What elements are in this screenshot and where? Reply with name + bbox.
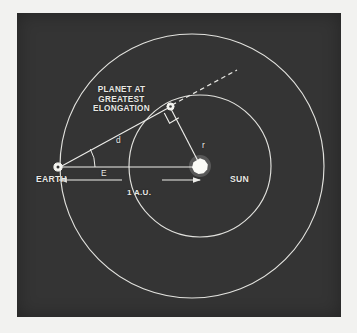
segment-d-line <box>60 107 170 167</box>
planet-marker-inner <box>169 105 172 108</box>
au-arrowhead-right <box>193 177 201 183</box>
figure-page: PLANET AT GREATEST ELONGATION EARTH SUN … <box>0 0 357 333</box>
right-angle-marker <box>164 113 179 123</box>
elongation-diagram <box>17 13 341 317</box>
earth-label: EARTH <box>36 174 67 184</box>
planet-label-line3: ELONGATION <box>93 104 150 113</box>
segment-r-label: r <box>202 141 205 151</box>
line-of-sight-dashed <box>172 70 237 105</box>
sun-label: SUN <box>230 174 249 184</box>
earth-marker-inner <box>57 166 60 169</box>
planet-label-line2: GREATEST <box>98 95 144 104</box>
distance-au-label: 1 A.U. <box>127 188 151 197</box>
diagram-panel: PLANET AT GREATEST ELONGATION EARTH SUN … <box>17 13 341 317</box>
angle-e-arc <box>90 149 95 167</box>
angle-e-label: E <box>101 169 107 179</box>
planet-label: PLANET AT GREATEST ELONGATION <box>93 85 150 114</box>
segment-d-label: d <box>116 136 121 146</box>
planet-label-line1: PLANET AT <box>98 85 146 94</box>
